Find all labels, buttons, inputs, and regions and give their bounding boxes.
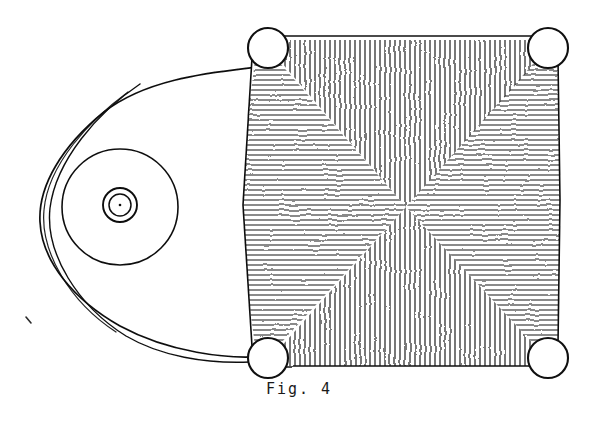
hatched-field-group: [232, 28, 576, 378]
figure-illustration: [0, 0, 598, 423]
figure-caption: Fig. 4: [0, 380, 598, 398]
corner-circle-top-right: [528, 28, 568, 68]
center-dot: [119, 204, 122, 207]
corner-circle-bottom-right: [528, 338, 568, 378]
corner-circle-top-left: [248, 28, 288, 68]
figure-container: Fig. 4: [0, 0, 598, 423]
corner-circle-bottom-left: [248, 338, 288, 378]
